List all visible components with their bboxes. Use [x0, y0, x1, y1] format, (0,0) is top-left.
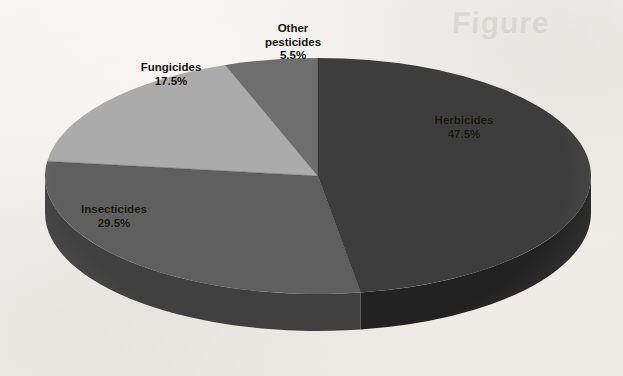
pie-chart-canvas	[0, 0, 623, 376]
pie-chart-figure: Figure	[0, 0, 623, 376]
